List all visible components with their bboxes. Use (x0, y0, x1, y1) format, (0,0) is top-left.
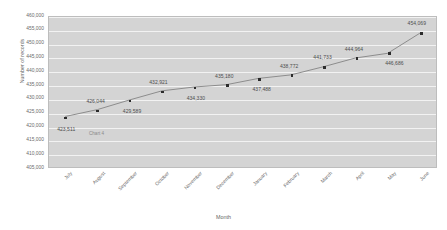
y-axis-tick-label: 455,000 (4, 27, 44, 32)
data-point-marker (291, 74, 294, 77)
data-point-marker (129, 100, 132, 103)
data-point-label: 432,921 (149, 79, 167, 85)
data-point-label: 423,511 (57, 126, 75, 132)
data-point-marker (161, 91, 164, 94)
series-line (65, 33, 420, 116)
y-axis-tick-label: 460,000 (4, 14, 44, 19)
y-axis-tick-label: 405,000 (4, 166, 44, 171)
data-point-label: 437,488 (252, 86, 270, 92)
data-point-label: 435,180 (215, 73, 233, 79)
y-axis-tick-label: 425,000 (4, 110, 44, 115)
data-point-label: 454,069 (408, 20, 426, 26)
data-point-marker (96, 110, 99, 113)
data-point-label: 438,772 (280, 63, 298, 69)
y-axis-tick-label: 435,000 (4, 83, 44, 88)
line-series (49, 17, 436, 167)
data-point-label: 441,733 (313, 54, 331, 60)
data-point-label: 434,330 (187, 95, 205, 101)
y-axis-tick-label: 410,000 (4, 152, 44, 157)
data-point-label: 446,686 (385, 60, 403, 66)
data-point-marker (64, 117, 67, 120)
data-point-label: 426,044 (86, 98, 104, 104)
y-axis-tick-labels: 460,000455,000450,000445,000440,000435,0… (8, 0, 44, 230)
data-point-marker (420, 32, 423, 35)
y-axis-tick-label: 450,000 (4, 41, 44, 46)
chart-figure: Number of records 460,000455,000450,0004… (0, 0, 447, 230)
chart-watermark: Chart 4 (89, 131, 104, 136)
y-axis-tick-label: 415,000 (4, 138, 44, 143)
y-axis-tick-label: 445,000 (4, 55, 44, 60)
y-axis-tick-label: 420,000 (4, 124, 44, 129)
data-point-marker (388, 52, 391, 55)
data-point-marker (258, 78, 261, 81)
plot-area: Chart 4 (48, 16, 437, 168)
x-axis-title: Month (0, 214, 447, 220)
data-point-marker (323, 66, 326, 69)
data-point-marker (356, 57, 359, 60)
y-axis-tick-label: 440,000 (4, 69, 44, 74)
data-point-label: 429,589 (123, 108, 141, 114)
x-axis-tick-labels: JulyAugustSeptemberOctoberNovemberDecemb… (48, 170, 437, 214)
data-point-marker (226, 84, 229, 87)
data-point-marker (194, 87, 197, 90)
y-axis-tick-label: 430,000 (4, 96, 44, 101)
data-point-label: 444,964 (345, 46, 363, 52)
